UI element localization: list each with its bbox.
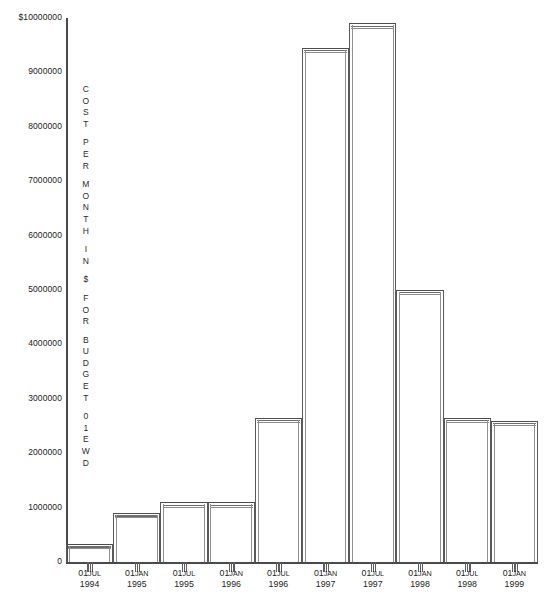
bar: [302, 48, 349, 562]
bar-chart: $100000009000000800000070000006000000500…: [0, 0, 546, 604]
bar-top-inner-line: [446, 420, 489, 421]
bar: [491, 421, 538, 562]
bar-top-inner-line-2: [115, 517, 158, 518]
bar-top-inner-line: [68, 546, 111, 547]
x-label-month: JUL: [371, 569, 384, 578]
x-label-day: 01: [78, 568, 88, 578]
x-label-month: JAN: [135, 569, 149, 578]
bar-top-inner-line-2: [210, 507, 253, 508]
bar-top-inner-line: [399, 292, 442, 293]
bar-top-inner-line-2: [257, 422, 300, 423]
bar-top-inner-line: [210, 505, 253, 506]
bar: [113, 513, 160, 562]
y-axis-tick-label: 4000000: [0, 339, 62, 348]
x-axis-tick-label: 01JAN1999: [481, 568, 546, 590]
bar: [444, 418, 491, 562]
x-label-month: JUL: [88, 569, 101, 578]
bar: [160, 502, 207, 562]
bar-right-inner-line: [487, 420, 488, 562]
y-axis-tick-label: 8000000: [0, 122, 62, 131]
y-axis-tick-label: 1000000: [0, 503, 62, 512]
bar-top-inner-line-2: [163, 507, 206, 508]
x-label-month: JAN: [512, 569, 526, 578]
bar-top-inner-line-2: [68, 548, 111, 549]
bar-top-inner-line-2: [446, 422, 489, 423]
figure-caption: [18, 597, 538, 604]
x-label-month: JUL: [183, 569, 196, 578]
bar-left-inner-line: [69, 546, 70, 562]
bar-top-inner-line-2: [399, 294, 442, 295]
x-label-day: 01: [267, 568, 277, 578]
bar-right-inner-line: [251, 504, 252, 562]
y-axis-tick-label: $10000000: [0, 13, 62, 22]
bar-top-inner-line-2: [351, 28, 394, 29]
bar-right-inner-line: [157, 515, 158, 562]
x-label-day: 01: [173, 568, 183, 578]
bar-right-inner-line: [440, 292, 441, 562]
y-axis-line: [66, 18, 68, 563]
y-axis-tick-label: 0: [0, 557, 62, 566]
bar: [255, 418, 302, 562]
bar-top-inner-line: [493, 423, 536, 424]
x-label-month: JAN: [324, 569, 338, 578]
bar-right-inner-line: [393, 25, 394, 562]
bar: [349, 23, 396, 562]
bar-left-inner-line: [163, 504, 164, 562]
bar-top-inner-line: [163, 505, 206, 506]
x-label-month: JAN: [418, 569, 432, 578]
bar-right-inner-line: [204, 504, 205, 562]
y-axis-tick-label: 2000000: [0, 448, 62, 457]
x-label-day: 01: [314, 568, 324, 578]
bar-top-inner-line-2: [493, 425, 536, 426]
y-axis-tick-label: 9000000: [0, 67, 62, 76]
bar: [66, 544, 113, 562]
bar-top-inner-line-2: [304, 52, 347, 53]
bar-right-inner-line: [345, 50, 346, 562]
bar-top-inner-line: [257, 420, 300, 421]
x-label-day: 01: [503, 568, 513, 578]
x-label-year: 1999: [481, 579, 546, 590]
bar-right-inner-line: [298, 420, 299, 562]
bar-left-inner-line: [258, 420, 259, 562]
bar-right-inner-line: [109, 546, 110, 562]
bar-left-inner-line: [494, 423, 495, 562]
bar-left-inner-line: [399, 292, 400, 562]
bar: [396, 290, 443, 562]
x-label-month: JUL: [277, 569, 290, 578]
x-label-month: JUL: [466, 569, 479, 578]
bar-left-inner-line: [210, 504, 211, 562]
y-axis-tick-labels: $100000009000000800000070000006000000500…: [0, 0, 62, 604]
x-label-day: 01: [219, 568, 229, 578]
bar-top-inner-line: [351, 26, 394, 27]
bar-left-inner-line: [305, 50, 306, 562]
bar-top-inner-line: [304, 50, 347, 51]
bar-left-inner-line: [352, 25, 353, 562]
bar-left-inner-line: [446, 420, 447, 562]
bar: [208, 502, 255, 562]
y-axis-tick-label: 3000000: [0, 394, 62, 403]
y-axis-tick-label: 5000000: [0, 285, 62, 294]
bar-left-inner-line: [116, 515, 117, 562]
x-label-month: JAN: [229, 569, 243, 578]
y-axis-tick-label: 7000000: [0, 176, 62, 185]
x-axis-tick-labels: 01JUL199401JAN199501JUL199501JAN199601JU…: [66, 568, 546, 594]
x-label-day: 01: [125, 568, 135, 578]
bar-right-inner-line: [534, 423, 535, 562]
plot-area: [66, 18, 538, 562]
bar-top-inner-line: [115, 515, 158, 516]
x-label-day: 01: [456, 568, 466, 578]
x-label-day: 01: [362, 568, 372, 578]
x-label-day: 01: [408, 568, 418, 578]
y-axis-tick-label: 6000000: [0, 231, 62, 240]
